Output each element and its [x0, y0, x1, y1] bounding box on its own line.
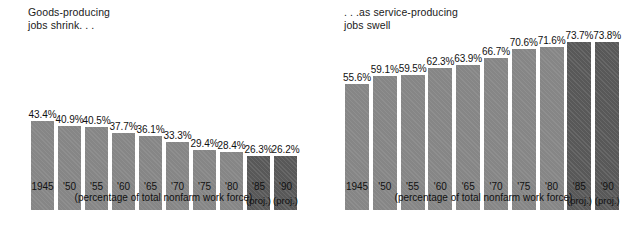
bar-value-label: 55.6%: [343, 72, 371, 83]
bar-value-label: 26.3%: [245, 144, 273, 155]
axis-tick-label: '85: [573, 181, 586, 192]
bar-value-label: 73.8%: [593, 30, 621, 41]
plot-area-service-producing: 55.6%194559.1%'5059.5%'5562.3%'6063.9%'6…: [316, 0, 631, 246]
bar-goods-producing-65: [139, 136, 162, 210]
plot-area-goods-producing: 43.4%194540.9%'5040.5%'5537.7%'6036.1%'6…: [0, 0, 315, 246]
axis-tick-label: '80: [225, 181, 238, 192]
bar-goods-producing-60: [112, 133, 135, 210]
axis-tick-label: '75: [198, 181, 211, 192]
axis-tick-label: '65: [144, 181, 157, 192]
bar-value-label: 43.4%: [29, 109, 57, 120]
bar-goods-producing-75: [193, 150, 216, 210]
bar-value-label: 73.7%: [565, 30, 593, 41]
axis-tick-label: '50: [378, 181, 391, 192]
bar-value-label: 62.3%: [426, 56, 454, 67]
bar-value-label: 40.5%: [83, 115, 111, 126]
bar-value-label: 36.1%: [137, 124, 165, 135]
chart-panel-service-producing: . . .as service-producing jobs swell 55.…: [316, 0, 631, 246]
bar-value-label: 70.6%: [510, 37, 538, 48]
axis-tick-label: '70: [171, 181, 184, 192]
axis-tick-label: 1945: [31, 181, 53, 192]
bar-goods-producing-50: [58, 126, 81, 210]
bar-value-label: 40.9%: [56, 114, 84, 125]
axis-tick-label: '65: [462, 181, 475, 192]
bar-value-label: 66.7%: [482, 46, 510, 57]
bar-goods-producing-55: [85, 127, 108, 210]
bar-value-label: 37.7%: [110, 121, 138, 132]
axis-tick-label: '90: [601, 181, 614, 192]
axis-tick-label: '70: [489, 181, 502, 192]
bar-value-label: 71.6%: [538, 35, 566, 46]
bar-value-label: 28.4%: [218, 140, 246, 151]
bar-value-label: 63.9%: [454, 53, 482, 64]
bar-goods-producing-70: [166, 142, 189, 210]
projection-note: (proj.): [567, 195, 592, 206]
bar-value-label: 26.2%: [272, 144, 300, 155]
axis-tick-label: '60: [434, 181, 447, 192]
bar-value-label: 59.5%: [399, 63, 427, 74]
axis-tick-label: '60: [117, 181, 130, 192]
axis-tick-label: '80: [545, 181, 558, 192]
projection-note: (proj.): [273, 195, 298, 206]
axis-tick-label: '50: [63, 181, 76, 192]
projection-note: (proj.): [246, 195, 271, 206]
axis-tick-label: '75: [517, 181, 530, 192]
axis-tick-label: '55: [406, 181, 419, 192]
bar-value-label: 29.4%: [191, 138, 219, 149]
bar-value-label: 59.1%: [371, 64, 399, 75]
projection-note: (proj.): [595, 195, 620, 206]
axis-tick-label: '55: [90, 181, 103, 192]
axis-tick-label: 1945: [346, 181, 368, 192]
bar-goods-producing-1945: [31, 121, 54, 210]
chart-panel-goods-producing: Goods-producing jobs shrink. . . 43.4%19…: [0, 0, 315, 246]
axis-tick-label: '85: [252, 181, 265, 192]
axis-tick-label: '90: [279, 181, 292, 192]
bar-value-label: 33.3%: [164, 130, 192, 141]
